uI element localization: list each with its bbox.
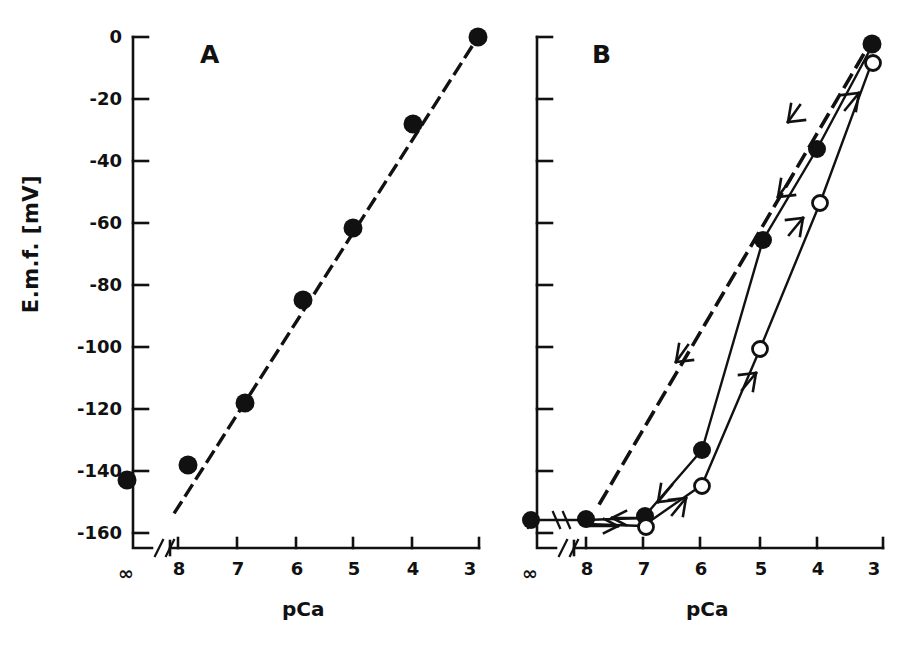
y-tick-label: -40 bbox=[42, 150, 122, 171]
x-tick-label: 4 bbox=[404, 558, 422, 579]
data-point-filled bbox=[693, 441, 711, 459]
data-point-open bbox=[866, 56, 881, 71]
panel-a-fit-line bbox=[175, 37, 478, 512]
x-tick-label: 5 bbox=[345, 558, 363, 579]
data-point-filled bbox=[808, 140, 826, 158]
data-point-filled bbox=[754, 231, 772, 249]
x-tick-label: 3 bbox=[865, 558, 883, 579]
x-tick-label: 5 bbox=[752, 558, 770, 579]
x-tick-label: 8 bbox=[170, 558, 188, 579]
y-tick-label: -80 bbox=[42, 274, 122, 295]
data-point-filled bbox=[577, 510, 595, 528]
x-tick-label: 7 bbox=[229, 558, 247, 579]
x-axis-infinity-label: ∞ bbox=[118, 562, 134, 584]
data-point-open bbox=[639, 520, 654, 535]
panel-b-axes bbox=[537, 37, 883, 556]
arrow-descending-top bbox=[788, 104, 805, 122]
arrow-descending-mid bbox=[778, 179, 795, 197]
data-point-filled bbox=[863, 35, 882, 54]
y-tick-label: -120 bbox=[42, 398, 122, 419]
panel-label-b: B bbox=[592, 40, 611, 69]
x-tick-label: 7 bbox=[635, 558, 653, 579]
arrow-ascending-top bbox=[842, 93, 859, 111]
panel-a-markers bbox=[118, 28, 488, 490]
x-tick-label: 4 bbox=[809, 558, 827, 579]
x-axis-infinity-label: ∞ bbox=[522, 562, 538, 584]
x-tick-label: 3 bbox=[461, 558, 479, 579]
y-axis-label: E.m.f. [mV] bbox=[19, 149, 43, 339]
arrow-ascending-mid bbox=[786, 218, 803, 236]
panel-b-arrow-group bbox=[586, 93, 859, 533]
x-axis-label: pCa bbox=[282, 597, 325, 621]
data-point-filled bbox=[179, 456, 198, 475]
x-axis-label: pCa bbox=[686, 597, 729, 621]
data-point-open bbox=[753, 342, 768, 357]
figure-root: E.m.f. [mV] bbox=[0, 0, 906, 655]
panel-label-a: A bbox=[200, 40, 219, 69]
panel-b-reference-line bbox=[600, 40, 872, 503]
y-tick-label: -100 bbox=[42, 336, 122, 357]
y-tick-label: 0 bbox=[42, 26, 122, 47]
x-tick-label: 6 bbox=[692, 558, 710, 579]
data-point-open bbox=[695, 479, 710, 494]
x-tick-label: 6 bbox=[288, 558, 306, 579]
data-point-filled bbox=[522, 511, 540, 529]
data-point-filled bbox=[469, 28, 488, 47]
data-point-open bbox=[813, 196, 828, 211]
plot-canvas bbox=[0, 0, 906, 655]
y-tick-label: -160 bbox=[42, 522, 122, 543]
data-point-filled bbox=[236, 394, 255, 413]
panel-b-markers-open bbox=[639, 56, 881, 535]
y-tick-label: -20 bbox=[42, 88, 122, 109]
data-point-filled bbox=[344, 219, 363, 238]
panel-b-markers-filled bbox=[522, 35, 882, 530]
data-point-filled bbox=[294, 291, 313, 310]
x-tick-label: 8 bbox=[578, 558, 596, 579]
data-point-filled bbox=[404, 115, 423, 134]
y-tick-label: -60 bbox=[42, 212, 122, 233]
y-tick-label: -140 bbox=[42, 460, 122, 481]
